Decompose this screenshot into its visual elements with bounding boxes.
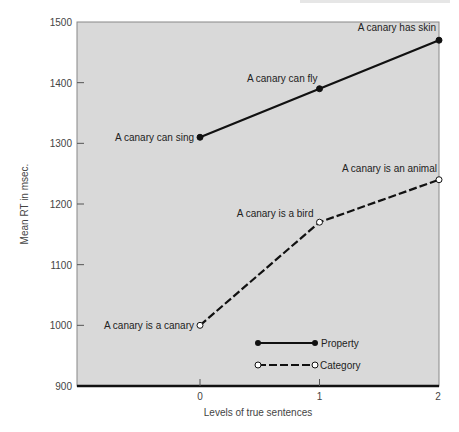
point-label: A canary can fly <box>247 73 318 84</box>
filled-circle-marker-icon <box>255 340 261 346</box>
y-tick-label: 900 <box>55 381 72 392</box>
point-label: A canary is a canary <box>104 320 194 331</box>
point-label: A canary is a bird <box>237 208 314 219</box>
filled-circle-marker-icon <box>317 86 323 92</box>
y-tick-label: 1000 <box>50 320 73 331</box>
open-circle-marker-icon <box>317 219 323 225</box>
open-circle-marker-icon <box>436 177 442 183</box>
y-axis-label: Mean RT in msec. <box>19 164 30 245</box>
filled-circle-marker-icon <box>197 134 203 140</box>
y-tick-label: 1200 <box>50 199 73 210</box>
y-tick-label: 1100 <box>50 260 72 271</box>
point-label: A canary is an animal <box>342 163 437 174</box>
open-circle-marker-icon <box>197 322 203 328</box>
point-label: A canary has skin <box>358 22 436 33</box>
open-circle-marker-icon <box>312 362 318 368</box>
y-tick-label: 1400 <box>50 78 73 89</box>
legend-label-category: Category <box>320 360 361 371</box>
line-chart: 900100011001200130014001500 012 A canary… <box>0 0 459 432</box>
filled-circle-marker-icon <box>312 340 318 346</box>
x-tick-label: 0 <box>197 391 203 402</box>
point-label: A canary can sing <box>115 132 194 143</box>
x-tick-label: 1 <box>317 391 323 402</box>
filled-circle-marker-icon <box>436 37 442 43</box>
y-tick-label: 1500 <box>50 17 73 28</box>
legend-label-property: Property <box>321 338 359 349</box>
x-tick-label: 2 <box>435 391 441 402</box>
x-axis-label: Levels of true sentences <box>204 407 312 418</box>
y-tick-label: 1300 <box>50 138 73 149</box>
open-circle-marker-icon <box>255 362 261 368</box>
